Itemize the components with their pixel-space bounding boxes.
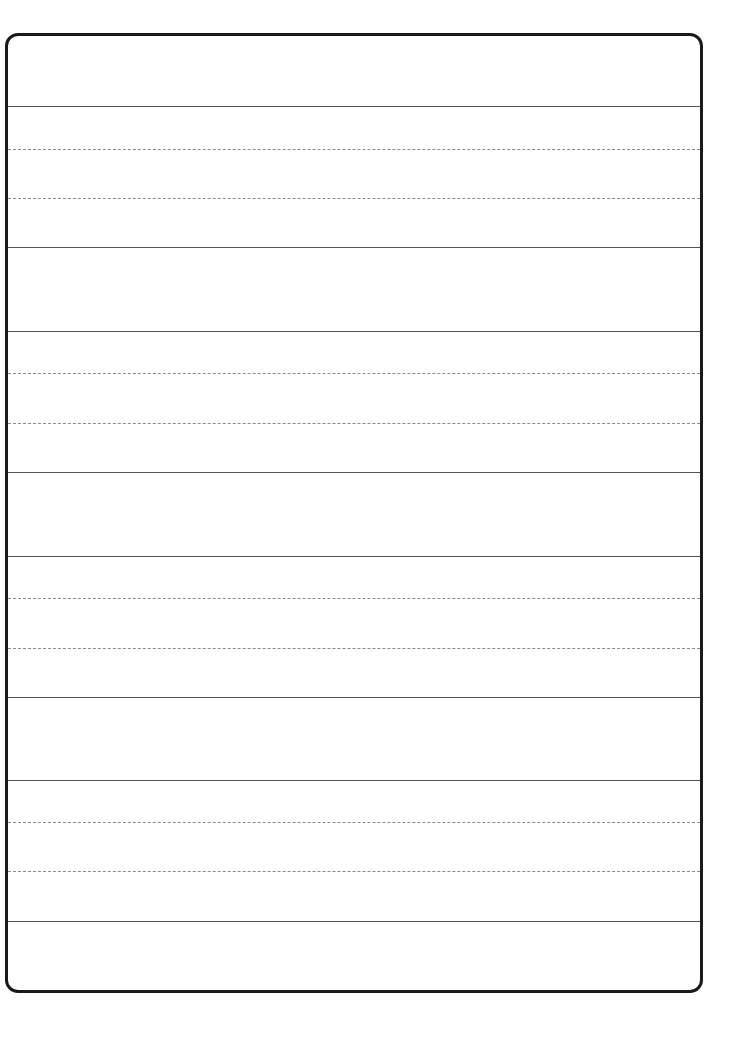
- group-4-top-line: [8, 780, 700, 781]
- group-2-top-line: [8, 331, 700, 332]
- group-1-bottom-line: [8, 247, 700, 248]
- group-3-bottom-line: [8, 697, 700, 698]
- practice-sheet: [5, 33, 703, 993]
- group-4-baseline-guide: [8, 871, 700, 872]
- group-2-midline: [8, 373, 700, 374]
- group-1-baseline-guide: [8, 198, 700, 199]
- group-4-midline: [8, 822, 700, 823]
- group-3-midline: [8, 598, 700, 599]
- group-4-bottom-line: [8, 921, 700, 922]
- group-3-top-line: [8, 556, 700, 557]
- group-3-baseline-guide: [8, 648, 700, 649]
- group-2-bottom-line: [8, 472, 700, 473]
- group-1-top-line: [8, 106, 700, 107]
- group-1-midline: [8, 149, 700, 150]
- group-2-baseline-guide: [8, 423, 700, 424]
